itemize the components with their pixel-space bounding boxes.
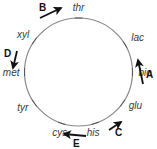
gene-label-xyl: xyl (16, 29, 30, 40)
gene-label-glu: glu (129, 100, 143, 111)
arrow-b-label: B (39, 2, 46, 13)
arrow-d: D (4, 48, 17, 68)
arrow-c-label: C (115, 127, 122, 138)
gene-label-his: his (87, 127, 100, 138)
gene-tick-xyl (32, 38, 37, 45)
gene-map: thrlacbiogluhiscystyrmetxyl A B C D E (0, 0, 157, 149)
gene-tick-tyr (32, 100, 37, 107)
gene-label-thr: thr (73, 2, 85, 13)
gene-label-cys: cys (52, 127, 67, 138)
gene-tick-cys (58, 122, 66, 124)
arrow-a-label: A (146, 69, 153, 80)
gene-tick-glu (120, 100, 125, 107)
gene-label-lac: lac (131, 32, 144, 43)
arrow-d-label: D (4, 48, 11, 59)
chromosome-circle (25, 18, 133, 126)
arrow-b: B (39, 2, 61, 18)
arrow-e-label: E (73, 138, 80, 149)
arrow-a: A (138, 60, 153, 84)
gene-label-tyr: tyr (17, 102, 29, 113)
gene-tick-lac (123, 42, 127, 49)
gene-tick-his (91, 122, 99, 124)
arrow-c: C (109, 122, 122, 138)
gene-label-met: met (3, 67, 21, 78)
arrow-d-shaft (13, 51, 17, 68)
